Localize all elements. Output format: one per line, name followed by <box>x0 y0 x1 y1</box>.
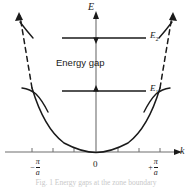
energy-level-label-E1-subscript: 1 <box>156 89 159 95</box>
energy-gap-label: Energy gap <box>56 58 105 68</box>
wavevector-axis-label: k <box>180 146 184 156</box>
energy-level-label-E1: E1 <box>150 84 159 95</box>
energy-level-label-E2-subscript: 2 <box>156 36 159 42</box>
lower-band-edge-left <box>22 88 48 112</box>
left-zone-boundary-denominator: a <box>36 169 40 177</box>
dashed-parabola-left <box>20 16 32 88</box>
left-zone-boundary-label: − π a <box>22 158 48 177</box>
gap-arrowhead-bottom <box>93 85 99 92</box>
figure-caption: Fig. 1 Energy gaps at the zone boundary <box>0 178 192 187</box>
gap-arrowhead-top <box>93 38 99 45</box>
right-zone-boundary-label: + π a <box>140 158 166 177</box>
energy-axis-arrowhead <box>93 11 99 19</box>
left-zone-boundary-numerator: π <box>36 158 40 166</box>
dashed-parabola-right-arrowhead <box>169 12 177 21</box>
energy-level-label-E2: E2 <box>150 31 159 42</box>
origin-label: 0 <box>93 160 98 169</box>
dashed-parabola-right <box>160 16 172 88</box>
right-zone-boundary-numerator: π <box>154 158 158 166</box>
dashed-parabola-left-arrowhead <box>15 12 23 21</box>
right-zone-boundary-denominator: a <box>154 169 158 177</box>
energy-axis-label: E <box>88 2 94 12</box>
